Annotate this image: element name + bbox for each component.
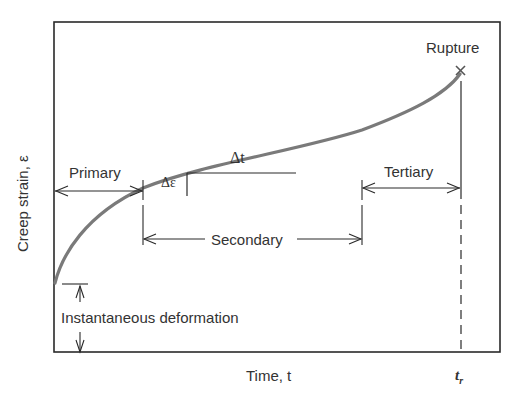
- creep-diagram: [0, 0, 527, 394]
- rupture-time-label: tr: [455, 368, 463, 386]
- plot-frame: [54, 22, 500, 352]
- rupture-time-sub: r: [459, 375, 463, 386]
- stage-label-primary: Primary: [69, 165, 121, 180]
- delta-strain-label: Δε: [161, 176, 176, 190]
- x-axis-label: Time, t: [246, 368, 291, 383]
- stage-label-tertiary: Tertiary: [384, 164, 433, 179]
- delta-time-label: Δt: [230, 150, 245, 166]
- slope-bracket: [187, 173, 296, 196]
- y-axis-label: Creep strain, ε: [14, 155, 31, 252]
- rupture-label: Rupture: [426, 40, 479, 55]
- instantaneous-deformation-label: Instantaneous deformation: [61, 310, 239, 325]
- stage-label-secondary: Secondary: [211, 232, 283, 247]
- x-axis-label-text: Time, t: [246, 367, 291, 384]
- tertiary-dimension: [362, 180, 460, 200]
- primary-dimension: [55, 180, 143, 200]
